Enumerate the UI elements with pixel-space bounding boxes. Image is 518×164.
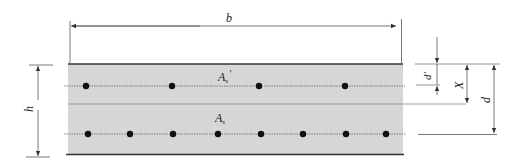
rebar [85, 131, 91, 137]
beam-section-diagram: As′ As b h d′ X d [0, 0, 518, 164]
rebar [169, 83, 175, 89]
concrete-section [68, 64, 403, 154]
cover-label: d′ [421, 72, 433, 81]
rebar [300, 131, 306, 137]
height-label: h [22, 106, 36, 112]
effective-depth-label: d [479, 96, 493, 103]
rebar [215, 131, 221, 137]
rebar [256, 83, 262, 89]
rebar [127, 131, 133, 137]
rebar [83, 83, 89, 89]
width-label: b [226, 11, 232, 25]
neutral-axis-label: X [452, 81, 466, 90]
rebar [343, 131, 349, 137]
rebar [383, 131, 389, 137]
rebar [342, 83, 348, 89]
rebar [170, 131, 176, 137]
rebar [258, 131, 264, 137]
